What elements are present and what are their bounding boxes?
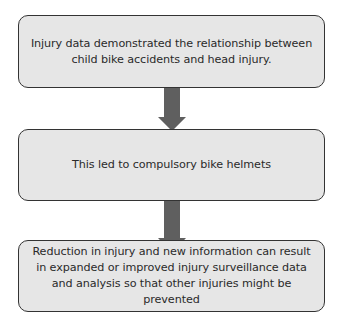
flow-step-3: Reduction in injury and new information … — [18, 240, 325, 312]
flow-step-3-text: Reduction in injury and new information … — [29, 244, 314, 308]
flow-step-1-text: Injury data demonstrated the relationshi… — [29, 36, 314, 68]
down-arrow-icon — [157, 88, 187, 131]
flow-step-2: This led to compulsory bike helmets — [18, 129, 325, 201]
flow-step-1: Injury data demonstrated the relationshi… — [18, 15, 325, 88]
flow-step-2-text: This led to compulsory bike helmets — [72, 157, 271, 173]
